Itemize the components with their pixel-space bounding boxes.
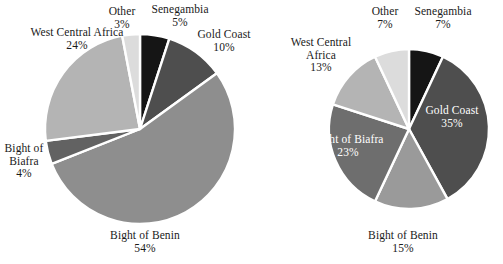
right-label-west-central-africa: West Central Africa 13% <box>282 36 360 74</box>
right-label-gold-coast: Gold Coast 35% <box>416 104 488 129</box>
left-label-bight-of-benin-name: Bight of Benin <box>110 229 180 241</box>
left-label-bight-of-benin: Bight of Benin 54% <box>92 229 198 254</box>
right-label-other: Other 7% <box>363 5 407 30</box>
left-label-other: Other 3% <box>100 5 144 30</box>
left-label-gold-coast-name: Gold Coast <box>197 28 250 40</box>
right-label-other-pct: 7% <box>363 18 407 31</box>
left-label-senegambia-pct: 5% <box>145 16 215 29</box>
right-label-west-central-africa-line2: Africa <box>282 49 360 62</box>
right-label-bight-of-biafra-pct: 23% <box>299 146 397 159</box>
left-label-other-pct: 3% <box>100 18 144 31</box>
pie-chart-figure: West Central Africa 24% Other 3% Senegam… <box>0 0 503 264</box>
right-pie-chart-panel: Other 7% Senegambia 7% West Central Afri… <box>252 0 503 264</box>
left-label-bight-of-biafra-pct: 4% <box>0 167 48 180</box>
right-label-gold-coast-name: Gold Coast <box>425 104 478 116</box>
right-label-bight-of-biafra-name: Bight of Biafra <box>312 133 383 145</box>
left-label-west-central-africa-pct: 24% <box>2 39 152 52</box>
left-label-bight-of-biafra-line2: Biafra <box>0 155 48 168</box>
left-label-senegambia: Senegambia 5% <box>145 3 215 28</box>
left-label-senegambia-name: Senegambia <box>151 3 208 15</box>
left-label-gold-coast-pct: 10% <box>193 41 255 54</box>
right-label-other-name: Other <box>372 5 399 17</box>
right-label-bight-of-benin-name: Bight of Benin <box>368 229 438 241</box>
right-label-senegambia-pct: 7% <box>407 18 479 31</box>
left-label-bight-of-benin-pct: 54% <box>92 242 198 255</box>
right-label-bight-of-benin-pct: 15% <box>350 242 456 255</box>
left-label-other-name: Other <box>109 5 136 17</box>
right-label-senegambia: Senegambia 7% <box>407 5 479 30</box>
right-label-senegambia-name: Senegambia <box>414 5 471 17</box>
right-label-gold-coast-pct: 35% <box>416 117 488 130</box>
left-pie-chart-panel: West Central Africa 24% Other 3% Senegam… <box>0 0 252 264</box>
left-label-gold-coast: Gold Coast 10% <box>193 28 255 53</box>
right-label-west-central-africa-pct: 13% <box>282 61 360 74</box>
right-label-west-central-africa-line1: West Central <box>291 36 352 48</box>
right-label-bight-of-benin: Bight of Benin 15% <box>350 229 456 254</box>
left-label-bight-of-biafra-line1: Bight of <box>5 142 44 154</box>
left-label-bight-of-biafra: Bight of Biafra 4% <box>0 142 48 180</box>
right-label-bight-of-biafra: Bight of Biafra 23% <box>299 133 397 158</box>
